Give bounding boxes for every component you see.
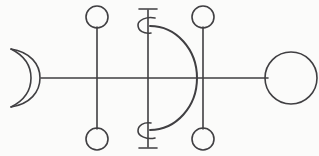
figure-container: Alchemical line symbol diagram [0, 0, 319, 156]
symbol-diagram [0, 0, 319, 156]
